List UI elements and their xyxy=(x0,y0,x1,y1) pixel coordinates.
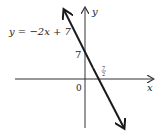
y-intercept-label: 7 xyxy=(75,49,81,60)
x-intercept-denominator: 2 xyxy=(102,71,105,77)
equation-label: y = −2x + 7 xyxy=(8,26,72,37)
origin-label: 0 xyxy=(76,83,82,93)
y-axis-label: y xyxy=(91,6,98,17)
graph-canvas: y = −2x + 7 y x 0 7 7 2 xyxy=(0,0,161,138)
function-line xyxy=(93,68,124,128)
x-intercept-label: 7 2 xyxy=(102,65,107,77)
x-axis-label: x xyxy=(147,82,153,93)
